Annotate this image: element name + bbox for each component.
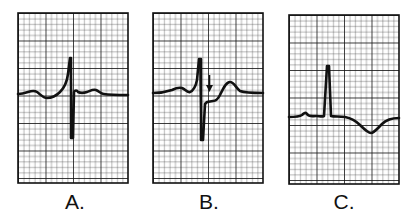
- ecg-panel-c: [289, 15, 399, 184]
- panel-label-c: C.: [324, 190, 364, 214]
- ecg-panel-a: [18, 13, 128, 183]
- ecg-grid-b: [153, 13, 263, 183]
- ecg-figure: [0, 0, 416, 219]
- panel-label-b: B.: [189, 190, 229, 214]
- panel-label-a: A.: [55, 190, 95, 214]
- ecg-grid-c: [289, 15, 399, 184]
- ecg-panel-b: [153, 13, 263, 183]
